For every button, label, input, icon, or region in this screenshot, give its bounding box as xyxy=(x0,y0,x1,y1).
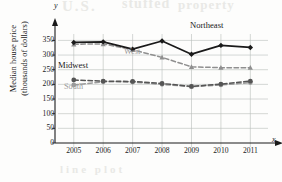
data-point-marker xyxy=(159,38,164,43)
data-point-marker xyxy=(248,45,253,50)
line-chart-figure: U.S. stuffed property line plot Median h… xyxy=(0,0,282,182)
y-axis-arrowhead xyxy=(52,18,58,26)
data-point-marker xyxy=(189,51,194,56)
data-point-marker xyxy=(218,43,223,48)
data-point-marker xyxy=(189,84,194,89)
series-label-south: South xyxy=(64,82,83,91)
x-axis-arrowhead xyxy=(275,140,282,146)
series-label-midwest: Midwest xyxy=(58,60,88,70)
data-point-marker xyxy=(219,82,224,87)
series-label-west: West xyxy=(124,47,140,56)
data-point-marker xyxy=(130,79,135,84)
data-point-marker xyxy=(101,79,106,84)
data-point-marker xyxy=(160,81,165,86)
series-label-northeast: Northeast xyxy=(190,20,223,30)
data-point-marker xyxy=(248,79,253,84)
plot-area xyxy=(0,0,282,182)
